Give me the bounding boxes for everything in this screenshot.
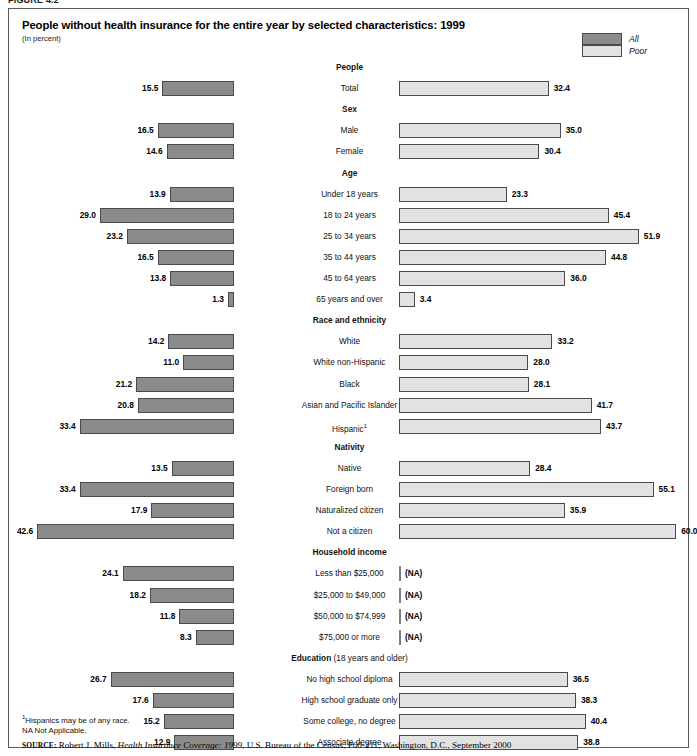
bar-all bbox=[162, 81, 234, 96]
na-label: (NA) bbox=[405, 609, 422, 624]
bar-poor bbox=[399, 208, 609, 223]
bar-poor bbox=[399, 271, 565, 286]
page-title: People without health insurance for the … bbox=[22, 19, 465, 31]
bar-poor bbox=[399, 355, 528, 370]
bar-poor bbox=[399, 229, 639, 244]
na-tick-icon bbox=[399, 609, 401, 624]
bar-poor bbox=[399, 187, 507, 202]
chart-row: Male16.535.0 bbox=[9, 120, 690, 141]
bar-all bbox=[151, 503, 234, 518]
na-tick-icon bbox=[399, 630, 401, 645]
bar-value-all: 1.3 bbox=[188, 292, 224, 307]
bar-poor bbox=[399, 398, 592, 413]
chart-row: Asian and Pacific Islander20.841.7 bbox=[9, 395, 690, 416]
chart-row: Not a citizen42.660.0 bbox=[9, 521, 690, 542]
bar-poor bbox=[399, 250, 606, 265]
chart-row: Hispanic133.443.7 bbox=[9, 416, 690, 437]
group-header-label: Nativity bbox=[9, 437, 690, 458]
group-header-label: Household income bbox=[9, 542, 690, 563]
bar-value-poor: 23.3 bbox=[512, 187, 528, 202]
bar-poor bbox=[399, 144, 539, 159]
group-header-row: Age bbox=[9, 163, 690, 184]
bar-poor bbox=[399, 672, 568, 687]
chart-row: Naturalized citizen17.935.9 bbox=[9, 500, 690, 521]
bar-all bbox=[228, 292, 234, 307]
bar-value-all: 18.2 bbox=[110, 588, 146, 603]
bar-all bbox=[136, 377, 234, 392]
bar-poor bbox=[399, 482, 654, 497]
bar-all bbox=[167, 144, 234, 159]
na-label: (NA) bbox=[405, 566, 422, 581]
bar-value-all: 11.0 bbox=[143, 355, 179, 370]
category-label: Male bbox=[9, 120, 690, 141]
bar-value-all: 14.2 bbox=[128, 334, 164, 349]
bar-value-all: 14.6 bbox=[127, 144, 163, 159]
chart-row: 25 to 34 years23.251.9 bbox=[9, 226, 690, 247]
bar-value-poor: 44.8 bbox=[611, 250, 627, 265]
source-author: Robert J. Mills, bbox=[59, 740, 118, 750]
bar-value-all: 13.5 bbox=[132, 461, 168, 476]
category-label: Total bbox=[9, 78, 690, 99]
chart-row: Foreign born33.455.1 bbox=[9, 479, 690, 500]
bar-all bbox=[158, 123, 234, 138]
chart-row: Total15.532.4 bbox=[9, 78, 690, 99]
chart-subtitle: (In percent) bbox=[22, 34, 61, 43]
figure-page: FIGURE 4.2 People without health insuran… bbox=[0, 0, 697, 756]
bar-value-all: 16.5 bbox=[118, 123, 154, 138]
bar-all bbox=[37, 524, 234, 539]
bar-value-poor: 30.4 bbox=[544, 144, 560, 159]
bar-value-poor: 45.4 bbox=[614, 208, 630, 223]
group-header-row: Nativity bbox=[9, 437, 690, 458]
bar-value-all: 20.8 bbox=[98, 398, 134, 413]
bar-value-poor: 33.2 bbox=[557, 334, 573, 349]
footnote-hispanics: 1Hispanics may be of any race. bbox=[22, 712, 130, 726]
bar-all bbox=[196, 630, 234, 645]
group-header-label: Education (18 years and older) bbox=[9, 648, 690, 669]
bar-value-poor: 28.1 bbox=[534, 377, 550, 392]
bar-poor bbox=[399, 81, 549, 96]
footnote-text-2: NA Not Applicable. bbox=[22, 726, 87, 735]
bar-all bbox=[168, 334, 234, 349]
bar-value-poor: 32.4 bbox=[554, 81, 570, 96]
na-label: (NA) bbox=[405, 630, 422, 645]
bar-all bbox=[127, 229, 234, 244]
bar-value-poor: 60.0 bbox=[681, 524, 697, 539]
bar-poor bbox=[399, 377, 529, 392]
bar-poor bbox=[399, 503, 565, 518]
group-header-label: Age bbox=[9, 163, 690, 184]
legend-label-poor: Poor bbox=[629, 45, 647, 57]
category-label: Native bbox=[9, 458, 690, 479]
chart-row: Native13.528.4 bbox=[9, 458, 690, 479]
chart-row: 35 to 44 years16.544.8 bbox=[9, 247, 690, 268]
chart-row: Under 18 years13.923.3 bbox=[9, 184, 690, 205]
bar-value-poor: 51.9 bbox=[644, 229, 660, 244]
bar-all bbox=[158, 250, 234, 265]
bar-value-poor: 40.4 bbox=[591, 714, 607, 729]
bar-value-all: 16.5 bbox=[118, 250, 154, 265]
bar-value-poor: 35.9 bbox=[570, 503, 586, 518]
category-label: 65 years and over bbox=[9, 289, 690, 310]
bar-all bbox=[183, 355, 234, 370]
footnote-text-1: Hispanics may be of any race. bbox=[25, 716, 129, 725]
source-line: SOURCE: Robert J. Mills, Health Insuranc… bbox=[22, 740, 511, 750]
bar-value-all: 11.8 bbox=[139, 609, 175, 624]
bar-all bbox=[80, 419, 234, 434]
group-header-label: Race and ethnicity bbox=[9, 310, 690, 331]
bar-poor bbox=[399, 714, 586, 729]
bar-value-poor: 35.0 bbox=[566, 123, 582, 138]
legend-swatch-poor-icon bbox=[582, 45, 622, 57]
chart-row: $25,000 to $49,00018.2(NA) bbox=[9, 585, 690, 606]
bar-value-poor: 28.0 bbox=[533, 355, 549, 370]
chart-row: $50,000 to $74,99911.8(NA) bbox=[9, 606, 690, 627]
source-rest: , U.S. Bureau of the Census, P60-211, Wa… bbox=[242, 740, 511, 750]
source-publication: Health Insurance Coverage: 1999 bbox=[118, 740, 243, 750]
group-header-label: People bbox=[9, 57, 690, 78]
footnote-na: NA Not Applicable. bbox=[22, 726, 130, 737]
bar-value-poor: 36.0 bbox=[570, 271, 586, 286]
bar-poor bbox=[399, 123, 561, 138]
bar-all bbox=[164, 714, 234, 729]
category-label-footnote-marker: 1 bbox=[364, 423, 367, 429]
bar-value-all: 42.6 bbox=[0, 524, 33, 539]
bar-value-poor: 41.7 bbox=[597, 398, 613, 413]
bar-all bbox=[153, 693, 234, 708]
